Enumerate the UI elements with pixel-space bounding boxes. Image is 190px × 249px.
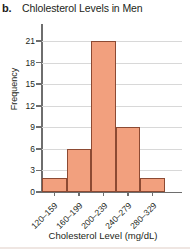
y-tick-label: 3 xyxy=(1,165,35,175)
bar xyxy=(42,178,67,192)
bar xyxy=(140,178,165,192)
y-tick-mark xyxy=(36,126,42,128)
bar xyxy=(116,127,141,192)
y-tick-label: 0 xyxy=(1,187,35,197)
y-tick-label: 15 xyxy=(1,79,35,89)
y-tick-mark xyxy=(36,191,42,193)
y-tick-mark xyxy=(36,148,42,150)
y-tick-mark xyxy=(36,170,42,172)
bar xyxy=(91,41,116,192)
x-tick-mark xyxy=(152,192,153,196)
y-tick-label: 21 xyxy=(1,36,35,46)
x-tick-mark xyxy=(78,192,79,196)
y-tick-mark xyxy=(36,62,42,64)
plot-area xyxy=(42,41,182,192)
x-tick-mark xyxy=(103,192,104,196)
y-tick-mark xyxy=(36,83,42,85)
y-tick-label: 6 xyxy=(1,144,35,154)
y-tick-label: 9 xyxy=(1,122,35,132)
chart-title: Chlolesterol Levels in Men xyxy=(22,2,188,14)
panel-label: b. xyxy=(2,2,11,14)
y-tick-label: 12 xyxy=(1,101,35,111)
y-tick-label: 18 xyxy=(1,58,35,68)
x-axis-title: Cholesterol Level (mg/dL) xyxy=(20,230,186,241)
bar xyxy=(67,149,92,192)
histogram-figure: b. Chlolesterol Levels in Men Frequency … xyxy=(0,0,190,249)
y-tick-mark xyxy=(36,40,42,42)
x-tick-mark xyxy=(127,192,128,196)
y-tick-mark xyxy=(36,105,42,107)
x-tick-mark xyxy=(54,192,55,196)
